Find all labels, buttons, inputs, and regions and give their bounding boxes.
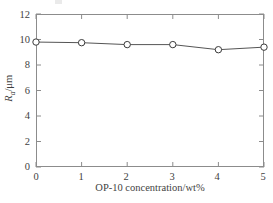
data-series-line [36,42,264,50]
data-point-marker [33,39,39,45]
data-point-markers [33,39,267,53]
y-tick-label-2: 2 [4,137,30,148]
x-tick-label-0: 0 [24,172,48,183]
y-tick-label-0: 0 [4,162,30,173]
y-axis-subscript: a [8,92,17,96]
y-axis-symbol: R [3,95,14,101]
data-point-marker [78,39,84,45]
tick-marks [36,14,264,167]
data-point-marker [215,47,221,53]
data-point-marker [124,41,130,47]
data-point-marker [261,44,267,50]
x-tick-label-1: 1 [69,172,93,183]
y-axis-title: Ra/μm [4,52,17,124]
plot-canvas [36,14,264,167]
cropped-text-artifact [55,0,62,4]
y-axis-unit: /μm [3,75,14,92]
y-tick-label-10: 10 [4,35,30,46]
x-tick-label-3: 3 [160,172,184,183]
x-axis-title: OP-10 concentration/wt% [36,183,264,194]
x-tick-label-4: 4 [205,172,229,183]
x-tick-label-2: 2 [114,172,138,183]
chart-figure: 12 10 8 6 4 2 0 0 1 2 3 4 5 OP-10 concen… [0,0,273,203]
y-tick-label-12: 12 [4,10,30,21]
x-tick-label-5: 5 [251,172,273,183]
data-point-marker [170,41,176,47]
